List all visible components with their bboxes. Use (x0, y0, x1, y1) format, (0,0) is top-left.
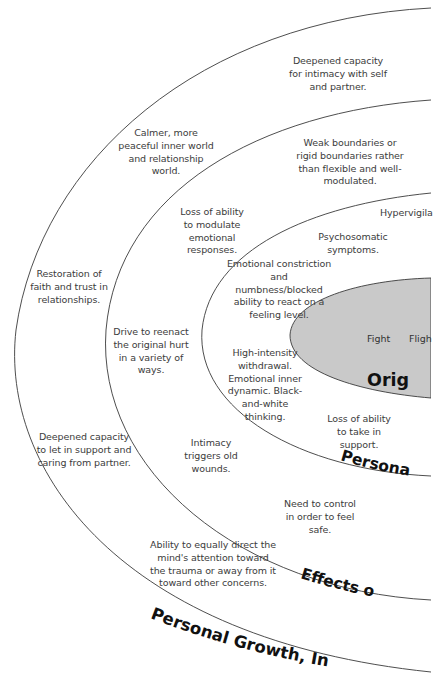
ring-label-growth: Personal Growth, In (149, 604, 331, 670)
note-effects-boundaries: Weak boundaries or rigid boundaries rath… (296, 137, 404, 188)
note-effects-intimacy: Intimacy triggers old wounds. (178, 437, 244, 475)
ring-label-personal: Persona (339, 447, 411, 480)
note-growth-faith: Restoration of faith and trust in relati… (30, 268, 108, 306)
note-personal-constriction: Emotional constriction and numbness/bloc… (226, 258, 332, 322)
note-growth-support: Deepened capacity to let in support and … (36, 431, 132, 469)
ring-label-effects: Effects o (299, 565, 376, 601)
note-personal-psychosomatic: Psychosomatic symptoms. (316, 231, 390, 257)
note-effects-modulate: Loss of ability to modulate emotional re… (176, 206, 248, 257)
note-growth-intimacy: Deepened capacity for intimacy with self… (288, 55, 388, 93)
note-effects-control: Need to control in order to feel safe. (279, 498, 361, 536)
note-effects-reenact: Drive to reenact the original hurt in a … (113, 326, 189, 377)
note-personal-withdrawal: High-intensity withdrawal. Emotional inn… (222, 347, 308, 424)
note-growth-attention: Ability to equally direct the mind's att… (150, 539, 276, 590)
note-personal-support: Loss of ability to take in support. (324, 413, 394, 451)
note-personal-hypervigilance: Hypervigila (380, 207, 437, 220)
ring-label-origin: Orig (367, 370, 409, 390)
origin-word-fight: Fight (367, 333, 390, 344)
note-growth-calmer: Calmer, more peaceful inner world and re… (116, 127, 216, 178)
origin-word-flight: Fligh (409, 333, 432, 344)
